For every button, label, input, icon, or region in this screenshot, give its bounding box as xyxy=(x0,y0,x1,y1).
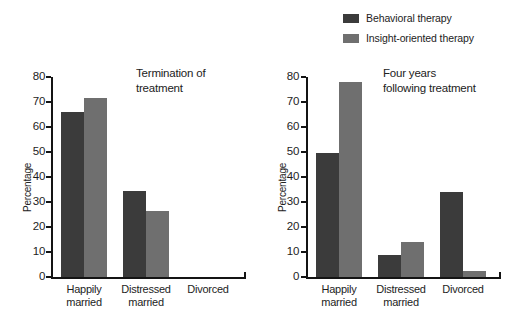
bar xyxy=(463,271,486,277)
y-axis-tick-label: 80 xyxy=(277,71,299,83)
y-axis-tick-label: 10 xyxy=(23,246,45,258)
category-label-line2: married xyxy=(128,296,164,308)
x-axis-end-cap xyxy=(244,272,246,279)
y-axis-tick xyxy=(301,226,306,228)
y-axis-tick xyxy=(301,176,306,178)
y-axis-tick xyxy=(46,176,51,178)
x-axis-category-label: Divorced xyxy=(173,283,243,296)
bar xyxy=(401,242,424,277)
panel-termination-of-treatment: Percentage Termination of treatment 0102… xyxy=(0,0,255,330)
category-label-line2: married xyxy=(321,296,357,308)
y-axis-tick-label: 60 xyxy=(23,121,45,133)
y-axis-tick-label: 0 xyxy=(23,271,45,283)
y-axis-tick xyxy=(46,201,51,203)
bar xyxy=(339,82,362,277)
panel-annotation-line1: Four years xyxy=(383,66,436,81)
bar xyxy=(378,255,401,278)
x-axis-category-label: Distressedmarried xyxy=(366,283,436,308)
bar xyxy=(61,112,84,277)
y-axis-tick-label: 30 xyxy=(277,196,299,208)
y-axis-tick xyxy=(46,126,51,128)
y-axis-line xyxy=(306,77,308,277)
y-axis-tick xyxy=(301,101,306,103)
category-label-line1: Happily xyxy=(322,283,357,295)
category-label-line1: Distressed xyxy=(376,283,425,295)
y-axis-tick xyxy=(301,276,306,278)
category-label-line1: Divorced xyxy=(187,283,228,295)
y-axis-tick-label: 30 xyxy=(23,196,45,208)
y-axis-tick-label: 60 xyxy=(277,121,299,133)
y-axis-tick-label: 10 xyxy=(277,246,299,258)
plot-area xyxy=(306,77,501,277)
panel-annotation-line2: following treatment xyxy=(383,81,476,96)
y-axis-tick-label: 20 xyxy=(23,221,45,233)
y-axis-tick xyxy=(301,201,306,203)
y-axis-tick-label: 20 xyxy=(277,221,299,233)
y-axis-tick-label: 40 xyxy=(23,171,45,183)
bar xyxy=(316,153,339,277)
x-axis-category-label: Happilymarried xyxy=(304,283,374,308)
y-axis-tick-label: 70 xyxy=(23,96,45,108)
y-axis-tick-label: 80 xyxy=(23,71,45,83)
y-axis-tick-label: 50 xyxy=(277,146,299,158)
y-axis-tick xyxy=(46,101,51,103)
x-axis-category-label: Distressedmarried xyxy=(111,283,181,308)
y-axis-tick xyxy=(46,151,51,153)
x-axis-end-cap xyxy=(499,272,501,279)
y-axis-tick xyxy=(46,276,51,278)
y-axis-tick-label: 40 xyxy=(277,171,299,183)
y-axis-tick-label: 0 xyxy=(277,271,299,283)
grouped-bar-chart-figure: Behavioral therapy Insight-oriented ther… xyxy=(0,0,509,330)
bar xyxy=(440,192,463,277)
panel-annotation-line1: Termination of xyxy=(136,66,205,81)
y-axis-tick xyxy=(46,226,51,228)
x-axis-category-label: Happilymarried xyxy=(49,283,119,308)
y-axis-tick xyxy=(46,251,51,253)
y-axis-line xyxy=(51,77,53,277)
x-axis-line xyxy=(51,277,246,279)
bar xyxy=(84,98,107,277)
y-axis-tick xyxy=(46,76,51,78)
bar xyxy=(123,191,146,277)
panel-annotation-line2: treatment xyxy=(136,81,183,96)
category-label-line2: married xyxy=(383,296,419,308)
y-axis-tick xyxy=(301,126,306,128)
x-axis-category-label: Divorced xyxy=(428,283,498,296)
y-axis-tick xyxy=(301,251,306,253)
category-label-line1: Distressed xyxy=(121,283,170,295)
bar xyxy=(146,211,169,277)
x-axis-line xyxy=(306,277,501,279)
y-axis-tick xyxy=(301,151,306,153)
panel-four-years-following-treatment: Percentage Four years following treatmen… xyxy=(255,0,509,330)
y-axis-tick-label: 50 xyxy=(23,146,45,158)
y-axis-tick-label: 70 xyxy=(277,96,299,108)
category-label-line2: married xyxy=(66,296,102,308)
category-label-line1: Happily xyxy=(67,283,102,295)
y-axis-tick xyxy=(301,76,306,78)
plot-area xyxy=(51,77,246,277)
category-label-line1: Divorced xyxy=(442,283,483,295)
